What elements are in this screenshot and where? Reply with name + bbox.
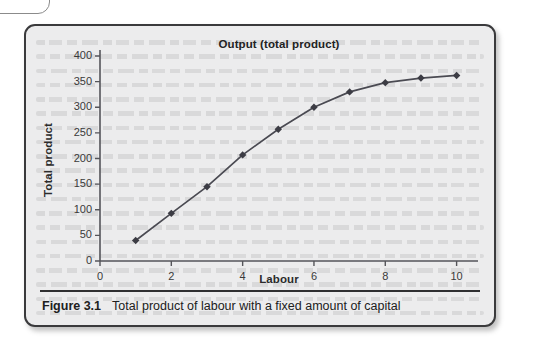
caption-divider	[40, 290, 480, 292]
caption-text: Total product of labour with a fixed amo…	[112, 299, 400, 313]
x-tick-label: 8	[373, 270, 397, 282]
figure-panel: Output (total product) Total product Lab…	[24, 24, 496, 327]
series-markers	[132, 72, 460, 244]
data-point-marker	[453, 72, 460, 79]
y-tick-label: 300	[58, 100, 92, 112]
data-point-marker	[417, 74, 424, 81]
y-tick-label: 200	[58, 152, 92, 164]
data-point-marker	[382, 79, 389, 86]
y-tick-label: 350	[58, 75, 92, 87]
page-element-stub	[0, 0, 50, 14]
x-tick-label: 6	[302, 270, 326, 282]
chart-axes	[100, 50, 478, 261]
y-tick-label: 400	[58, 49, 92, 61]
figure-caption: Figure 3.1 Total product of labour with …	[42, 295, 480, 317]
x-tick-label: 10	[445, 270, 469, 282]
data-point-marker	[346, 88, 353, 95]
x-tick-label: 4	[231, 270, 255, 282]
y-tick-label: 250	[58, 126, 92, 138]
chart-plot-area: Output (total product) Total product Lab…	[26, 26, 496, 327]
y-tick-label: 100	[58, 203, 92, 215]
y-tick-label: 0	[58, 254, 92, 266]
series-line-total-product	[136, 75, 457, 240]
y-tick-label: 150	[58, 177, 92, 189]
x-tick-label: 2	[159, 270, 183, 282]
caption-number: Figure 3.1	[42, 299, 101, 313]
x-tick-label: 0	[88, 270, 112, 282]
y-tick-label: 50	[58, 228, 92, 240]
